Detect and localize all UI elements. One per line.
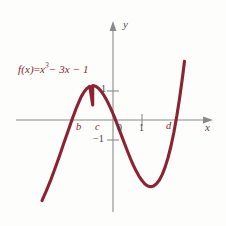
- root-label-b: b: [76, 122, 81, 133]
- root-label-d: d: [166, 121, 171, 132]
- y-axis-arrowhead: [110, 21, 117, 31]
- y-tick-label-one: 1: [101, 84, 106, 94]
- function-equation-label: f(x)=x3− 3x − 1: [18, 62, 89, 75]
- equation-fx: f(x): [18, 63, 34, 75]
- equation-rest: − 3x − 1: [49, 63, 89, 75]
- origin-label: 0: [117, 123, 122, 133]
- function-graph-figure: f(x)=x3− 3x − 1 y x b c d 0 1 1 −1: [0, 0, 226, 226]
- y-axis-label: y: [123, 19, 128, 30]
- x-tick-label-one: 1: [139, 123, 144, 133]
- root-label-c: c: [95, 122, 100, 133]
- x-axis-label: x: [205, 122, 210, 133]
- graph-canvas: [0, 0, 226, 226]
- y-tick-label-negative-one: −1: [93, 134, 104, 144]
